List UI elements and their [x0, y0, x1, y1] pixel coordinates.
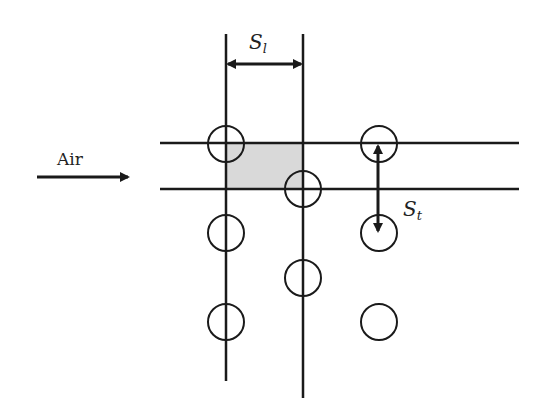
pitch-symbol: S	[249, 30, 263, 54]
pitch-symbol: S	[403, 197, 417, 221]
tube-bank-diagram	[0, 0, 547, 418]
shaded-unit-cell	[226, 143, 303, 189]
air-label: Air	[57, 149, 83, 169]
pitch-subscript: t	[417, 208, 422, 223]
longitudinal-pitch-label: Sl	[249, 30, 267, 56]
transverse-pitch-label: St	[403, 197, 422, 223]
tube-circle	[361, 304, 397, 340]
pitch-subscript: l	[263, 41, 267, 56]
